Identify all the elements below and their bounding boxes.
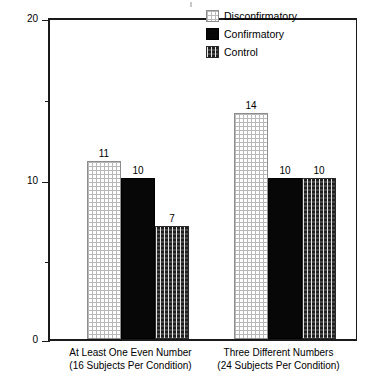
x-group-label-2-line2: (24 Subjects Per Condition) [196, 359, 361, 372]
bar-group2-confirmatory: 10 [268, 178, 302, 340]
y-tick-0: 0 [42, 341, 50, 342]
y-tick-5-minor [45, 262, 50, 263]
legend-item-control: Control [206, 46, 297, 58]
y-tick-20: 20 [42, 20, 50, 21]
x-group-label-2-line1: Three Different Numbers [196, 346, 361, 359]
bar-value-label: 7 [169, 213, 175, 224]
bar-group2-control: 10 [302, 178, 336, 340]
scan-artifact [190, 2, 192, 7]
y-tick-label-10: 10 [27, 175, 38, 186]
bar-group1-disconfirmatory: 11 [87, 161, 121, 339]
x-group-label-2: Three Different Numbers (24 Subjects Per… [196, 346, 361, 372]
y-tick-10: 10 [42, 182, 50, 183]
bar-value-label: 14 [245, 100, 256, 111]
x-group-label-1-line1: At Least One Even Number [48, 346, 213, 359]
legend-item-confirmatory: Confirmatory [206, 28, 297, 40]
y-tick-15-minor [45, 101, 50, 102]
bar-group1-confirmatory: 10 [121, 178, 155, 340]
legend-swatch-control-icon [206, 46, 219, 58]
bar-value-label: 10 [279, 165, 290, 176]
legend-swatch-disconfirmatory-icon [206, 10, 219, 22]
plot-area: 20 10 0 11 10 7 14 10 10 [48, 18, 357, 341]
y-tick-label-20: 20 [27, 13, 38, 24]
legend: Disconfirmatory Confirmatory Control [206, 10, 297, 58]
bar-value-label: 10 [313, 165, 324, 176]
bar-chart-figure: Number of Subjects Who Solved the Rule 2… [0, 0, 377, 383]
bar-value-label: 10 [132, 165, 143, 176]
bar-group1-control: 7 [155, 226, 189, 339]
y-tick-label-0: 0 [32, 334, 38, 345]
bar-value-label: 11 [99, 148, 109, 159]
x-group-label-1-line2: (16 Subjects Per Condition) [48, 359, 213, 372]
legend-label-confirmatory: Confirmatory [224, 28, 284, 40]
legend-label-control: Control [224, 46, 258, 58]
legend-label-disconfirmatory: Disconfirmatory [224, 10, 297, 22]
legend-swatch-confirmatory-icon [206, 28, 219, 40]
x-group-label-1: At Least One Even Number (16 Subjects Pe… [48, 346, 213, 372]
bar-group2-disconfirmatory: 14 [234, 113, 268, 339]
legend-item-disconfirmatory: Disconfirmatory [206, 10, 297, 22]
